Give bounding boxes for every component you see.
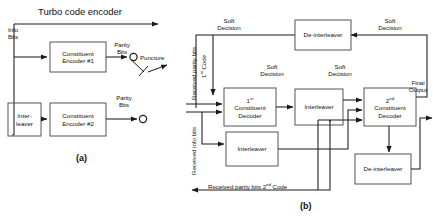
parity-bits-label-1: Parity Bits xyxy=(104,41,140,55)
soft-decision-mid-left-label: Soft Decision xyxy=(252,63,292,77)
constituent-encoder-1-box: Constituent Encoder #1 xyxy=(50,42,106,72)
constituent-encoder-2-box: Constituent Encoder #2 xyxy=(50,103,106,136)
de-interleaver-bottom-box: De-interleaver xyxy=(355,154,411,184)
received-parity-bits-1st-code-sup: 1st Code xyxy=(198,55,207,78)
interleaver-box-encoder: Inter- leaver xyxy=(8,103,41,136)
turbo-code-figure: Turbo code encoder Info Bits Constituent… xyxy=(0,0,433,220)
soft-decision-mid-right-label: Soft Decision xyxy=(320,63,360,77)
part-b-label: (b) xyxy=(300,203,311,210)
interleaver-lower-box: Interleaver xyxy=(226,132,278,166)
received-parity-bits-2nd-code-label: Received parity bits 2nd Code xyxy=(208,181,287,190)
parity-bits-label-2: Parity Bits xyxy=(106,94,142,108)
received-info-bits-label: Received info bits xyxy=(190,127,197,175)
soft-decision-top-left-label: Soft Decision xyxy=(209,17,249,31)
de-interleaver-top-box: De-interleaver xyxy=(295,20,351,50)
encoder-title: Turbo code encoder xyxy=(38,6,122,17)
second-constituent-decoder-box: 2ndConstituent Decoder xyxy=(364,88,416,126)
soft-decision-top-right-label: Soft Decision xyxy=(370,17,410,31)
final-output-label: Final Output xyxy=(403,79,433,93)
part-a-label: (a) xyxy=(76,155,87,162)
first-constituent-decoder-box: 1stConstituent Decoder xyxy=(224,88,276,126)
info-bits-label: Info Bits xyxy=(1,26,25,40)
interleaver-upper-box: Interleaver xyxy=(295,89,343,125)
puncture-label: Puncture xyxy=(140,54,164,61)
received-parity-bits-1st-code-label: Received parity bits xyxy=(190,47,197,100)
